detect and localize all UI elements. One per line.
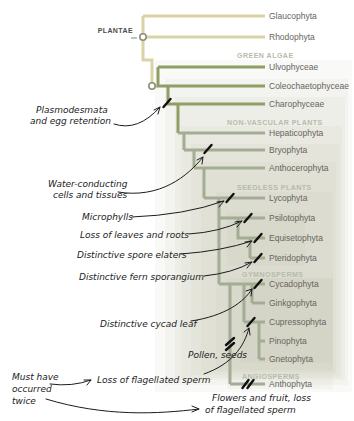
- note-plasmodesmata-line1: Plasmodesmata: [36, 105, 108, 115]
- group-label-non-vascular: NON-VASCULAR PLANTS: [227, 119, 323, 126]
- taxon-label-bryophyta: Bryophyta: [269, 145, 308, 155]
- note-loss-leaves-roots: Loss of leaves and roots: [80, 230, 189, 240]
- arrow-plasmodesmata: [114, 107, 160, 126]
- taxon-label-anthophyta: Anthophyta: [269, 379, 312, 389]
- node-circle-plantae: [140, 34, 146, 40]
- node-circle-green-plants: [149, 83, 155, 89]
- taxon-label-glaucophyta: Glaucophyta: [269, 11, 317, 21]
- arrow-must-have-2: [46, 399, 199, 413]
- note-spore-elaters: Distinctive spore elaters: [77, 250, 187, 260]
- note-must-have-line3: twice: [12, 396, 36, 406]
- plant-cladogram-figure: PLANTAE GREEN ALGAE NON-VASCULAR PLANTS …: [0, 0, 354, 421]
- note-pollen-seeds: Pollen, seeds: [188, 350, 247, 360]
- taxon-label-ulvophyceae: Ulvophyceae: [269, 62, 318, 72]
- note-microphylls: Microphylls: [82, 212, 133, 222]
- taxon-label-lycophyta: Lycophyta: [269, 193, 308, 203]
- cladogram-canvas: PLANTAE GREEN ALGAE NON-VASCULAR PLANTS …: [0, 0, 354, 421]
- taxon-label-anthocerophyta: Anthocerophyta: [269, 163, 329, 173]
- taxon-label-equisetophyta: Equisetophyta: [269, 233, 323, 243]
- note-water-conducting-line1: Water-conducting: [48, 179, 128, 189]
- taxon-label-charophyceae: Charophyceae: [269, 99, 325, 109]
- note-flowers-fruit-line1: Flowers and fruit, loss: [212, 393, 311, 403]
- note-must-have-line1: Must have: [12, 372, 59, 382]
- group-label-gymnosperms: GYMNOSPERMS: [242, 271, 304, 278]
- group-label-green-algae: GREEN ALGAE: [237, 52, 294, 59]
- note-flowers-fruit-line2: of flagellated sperm: [205, 405, 296, 415]
- taxon-label-pteridophyta: Pteridophyta: [269, 253, 317, 263]
- taxon-label-rhodophyta: Rhodophyta: [269, 32, 315, 42]
- taxon-label-pinophyta: Pinophyta: [269, 336, 307, 346]
- taxon-label-psilotophyta: Psilotophyta: [269, 213, 316, 223]
- taxon-label-gnetophyta: Gnetophyta: [269, 354, 313, 364]
- note-cycad-leaf: Distinctive cycad leaf: [100, 319, 198, 329]
- note-loss-flagellated-sperm: Loss of flagellated sperm: [97, 375, 211, 385]
- clade-shading: [155, 60, 352, 392]
- taxon-label-cupressophyta: Cupressophyta: [269, 317, 326, 327]
- taxon-label-cycadophyta: Cycadophyta: [269, 279, 319, 289]
- kingdom-label: PLANTAE: [98, 27, 133, 34]
- note-fern-sporangium: Distinctive fern sporangium: [79, 272, 204, 282]
- taxon-label-ginkgophyta: Ginkgophyta: [269, 298, 317, 308]
- note-plasmodesmata-line2: and egg retention: [30, 116, 111, 126]
- taxon-label-coleochaetophyceae: Coleochaetophyceae: [269, 81, 349, 91]
- taxon-label-hepaticophyta: Hepaticophyta: [269, 128, 324, 138]
- note-water-conducting-line2: cells and tissues: [53, 190, 127, 200]
- group-label-seedless-plants: SEEDLESS PLANTS: [237, 184, 312, 191]
- note-must-have-line2: occurred: [12, 384, 52, 394]
